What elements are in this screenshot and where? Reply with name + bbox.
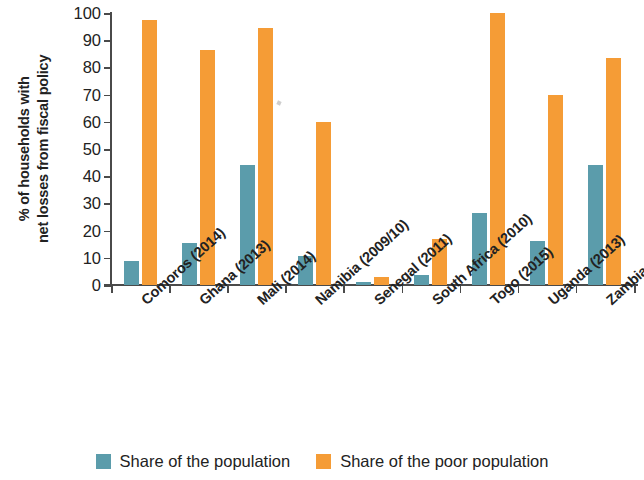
bar-group bbox=[356, 13, 389, 285]
y-axis-tick-label: 20 bbox=[83, 221, 101, 240]
bar[interactable] bbox=[432, 239, 447, 285]
bar[interactable] bbox=[316, 122, 331, 285]
x-axis-tick-mark bbox=[343, 285, 345, 293]
x-axis-tick-mark bbox=[460, 285, 462, 293]
y-axis-tick-label: 50 bbox=[83, 140, 101, 159]
bar[interactable] bbox=[240, 165, 255, 285]
bar-chart-figure: % of households with net losses from fis… bbox=[0, 0, 644, 480]
y-axis-tick-label: 30 bbox=[83, 194, 101, 213]
bar[interactable] bbox=[588, 165, 603, 285]
x-axis-tick-mark bbox=[111, 285, 113, 293]
legend-item-poor-population[interactable]: Share of the poor population bbox=[316, 452, 548, 471]
y-axis-tick-mark bbox=[104, 40, 111, 42]
x-axis-tick-mark bbox=[518, 285, 520, 293]
bar[interactable] bbox=[472, 213, 487, 285]
x-axis-label: Uganda (2013) bbox=[545, 296, 556, 308]
y-axis-tick-label: 70 bbox=[83, 85, 101, 104]
chart-legend: Share of the population Share of the poo… bbox=[0, 452, 644, 471]
x-axis-tick-mark bbox=[227, 285, 229, 293]
bar[interactable] bbox=[374, 277, 389, 285]
legend-label-poor-population: Share of the poor population bbox=[340, 452, 548, 471]
bar[interactable] bbox=[548, 95, 563, 285]
y-axis-tick-mark bbox=[104, 13, 111, 15]
y-axis-tick-mark bbox=[104, 285, 111, 287]
bar-group bbox=[182, 13, 215, 285]
x-axis-tick-mark bbox=[169, 285, 171, 293]
bar[interactable] bbox=[606, 58, 621, 285]
bar[interactable] bbox=[298, 256, 313, 285]
y-axis-tick-label: 90 bbox=[83, 31, 101, 50]
bar[interactable] bbox=[142, 20, 157, 285]
bar-group bbox=[124, 13, 157, 285]
plot-area: 0102030405060708090100 bbox=[111, 13, 634, 285]
x-axis-tick-mark bbox=[634, 285, 636, 293]
bar-group bbox=[298, 13, 331, 285]
scan-speck bbox=[276, 100, 281, 105]
bar[interactable] bbox=[182, 243, 197, 285]
y-axis-tick-label: 40 bbox=[83, 167, 101, 186]
bar-group bbox=[588, 13, 621, 285]
bar[interactable] bbox=[356, 282, 371, 285]
bar-group bbox=[240, 13, 273, 285]
y-axis-tick-mark bbox=[104, 122, 111, 124]
x-axis-label: Ghana (2013) bbox=[196, 296, 207, 308]
x-axis-tick-mark bbox=[285, 285, 287, 293]
y-axis-tick-mark bbox=[104, 149, 111, 151]
bar-group bbox=[530, 13, 563, 285]
bar[interactable] bbox=[124, 261, 139, 285]
bar[interactable] bbox=[530, 241, 545, 285]
y-axis-tick-label: 0 bbox=[92, 276, 101, 295]
y-axis-title: % of households with net losses from fis… bbox=[4, 0, 64, 300]
y-axis-tick-mark bbox=[104, 231, 111, 233]
x-axis-tick-mark bbox=[402, 285, 404, 293]
legend-item-population[interactable]: Share of the population bbox=[96, 452, 291, 471]
bar[interactable] bbox=[490, 13, 505, 285]
y-axis-tick-mark bbox=[104, 203, 111, 205]
y-axis-tick-label: 80 bbox=[83, 58, 101, 77]
bar-group bbox=[472, 13, 505, 285]
y-axis-tick-label: 10 bbox=[83, 248, 101, 267]
y-axis-tick-mark bbox=[104, 258, 111, 260]
y-axis-title-line-2: net losses from fiscal policy bbox=[34, 13, 53, 285]
y-axis-tick-mark bbox=[104, 95, 111, 97]
y-axis-tick-label: 100 bbox=[73, 4, 101, 23]
x-axis-label: Senegal (2011) bbox=[371, 296, 382, 308]
y-axis-title-line-1: % of households with bbox=[16, 76, 32, 221]
legend-label-population: Share of the population bbox=[120, 452, 291, 471]
bar[interactable] bbox=[258, 28, 273, 285]
y-axis-tick-mark bbox=[104, 176, 111, 178]
x-axis-label: Zambia (2015) bbox=[603, 296, 614, 308]
x-axis-label: Togo (2015) bbox=[487, 296, 498, 308]
y-axis-tick-mark bbox=[104, 67, 111, 69]
y-axis-tick-label: 60 bbox=[83, 112, 101, 131]
x-axis-tick-mark bbox=[576, 285, 578, 293]
x-axis-label: Comoros (2014) bbox=[138, 296, 149, 308]
x-axis-label: Mali (2014) bbox=[254, 296, 265, 308]
x-axis-label: Namibia (2009/10) bbox=[312, 296, 323, 308]
legend-swatch-icon bbox=[316, 454, 331, 469]
bar-group bbox=[414, 13, 447, 285]
bar[interactable] bbox=[200, 50, 215, 285]
bar[interactable] bbox=[414, 275, 429, 285]
legend-swatch-icon bbox=[96, 454, 111, 469]
x-axis-label: South Africa (2010) bbox=[429, 296, 440, 308]
